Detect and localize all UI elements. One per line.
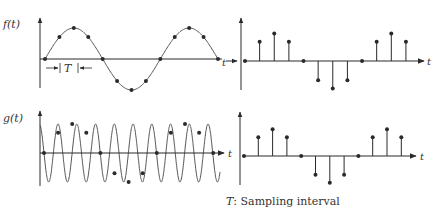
caption: T: Sampling interval	[226, 195, 340, 208]
g-ylabel: g(t)	[3, 112, 23, 125]
panel-f-continuous: T f(t)	[2, 18, 222, 92]
interval-marker: T	[46, 62, 92, 75]
fs-xlabel: t	[427, 56, 432, 67]
panel-g-sampled: t	[240, 112, 425, 185]
g-xlabel: t	[228, 148, 233, 159]
fs-xlabel-left: t	[222, 57, 227, 68]
interval-label: T	[64, 62, 73, 75]
panel-f-sampled: t t	[222, 18, 432, 91]
panel-g-continuous: g(t) t	[3, 111, 233, 186]
f-ylabel: f(t)	[2, 18, 20, 31]
gs-xlabel: t	[420, 151, 425, 162]
sampling-figure: T f(t) t t g(t) t t T: Sampling interval	[0, 0, 439, 213]
